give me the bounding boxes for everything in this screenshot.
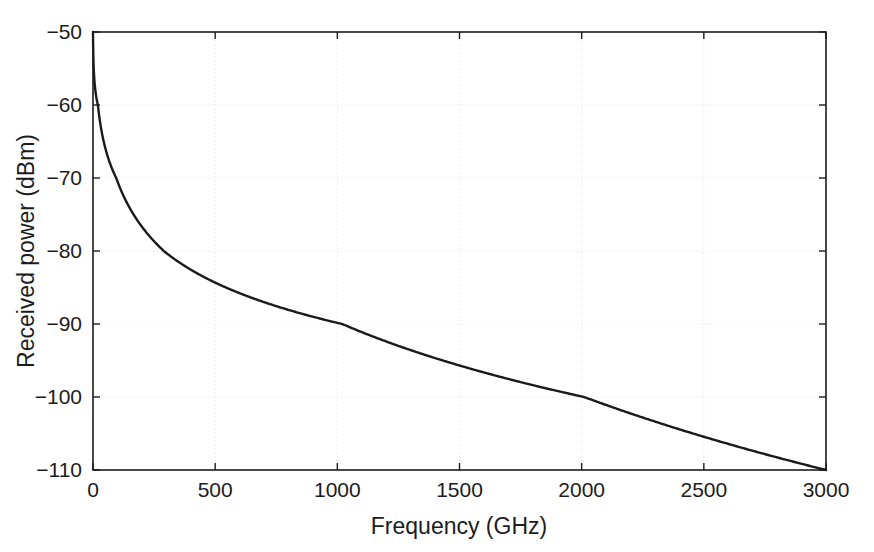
y-tick-label: −70 bbox=[46, 166, 82, 189]
y-tick-label: −90 bbox=[46, 312, 82, 335]
x-axis-title: Frequency (GHz) bbox=[371, 513, 547, 539]
figure-container: 050010001500200025003000 −110−100−90−80−… bbox=[0, 0, 874, 552]
x-tick-label: 2500 bbox=[680, 478, 727, 501]
y-tick-label: −60 bbox=[46, 93, 82, 116]
x-tick-label: 500 bbox=[198, 478, 233, 501]
y-axis-title: Received power (dBm) bbox=[13, 134, 39, 368]
x-tick-label: 0 bbox=[87, 478, 99, 501]
x-tick-label: 3000 bbox=[803, 478, 850, 501]
y-tick-label: −110 bbox=[36, 458, 82, 481]
y-tick-label: −50 bbox=[46, 20, 82, 43]
x-tick-label: 1000 bbox=[314, 478, 361, 501]
x-tick-label: 1500 bbox=[436, 478, 483, 501]
y-tick-label: −100 bbox=[35, 385, 82, 408]
y-tick-label: −80 bbox=[46, 239, 82, 262]
received-power-chart: 050010001500200025003000 −110−100−90−80−… bbox=[0, 0, 874, 552]
x-tick-label: 2000 bbox=[558, 478, 605, 501]
